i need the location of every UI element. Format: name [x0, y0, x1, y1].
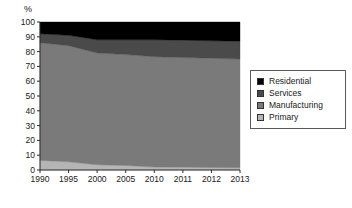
legend-item[interactable]: Residential [257, 76, 340, 87]
x-axis-tick-label: 2005 [116, 175, 135, 184]
legend-swatch-icon [257, 114, 264, 121]
legend-item-label: Services [269, 89, 302, 98]
legend-item[interactable]: Manufacturing [257, 100, 340, 111]
legend-item[interactable]: Primary [257, 112, 340, 123]
stacked-area-chart: % 1009080706050403020100 199019952000200… [0, 0, 352, 208]
area-series-manufacturing [40, 43, 240, 168]
x-axis-tick-label: 2010 [145, 175, 164, 184]
legend-item-label: Manufacturing [269, 101, 323, 110]
x-axis-tick-label: 2011 [174, 175, 192, 184]
legend-item-label: Residential [269, 77, 311, 86]
chart-legend: ResidentialServicesManufacturingPrimary [250, 70, 346, 129]
legend-item[interactable]: Services [257, 88, 340, 99]
x-axis-tick-label: 2012 [202, 175, 221, 184]
x-axis-tick-label: 1990 [31, 175, 50, 184]
x-axis-tick-label: 2013 [231, 175, 250, 184]
legend-swatch-icon [257, 90, 264, 97]
legend-item-label: Primary [269, 113, 298, 122]
legend-swatch-icon [257, 102, 264, 109]
x-axis-tick-label: 1995 [59, 175, 78, 184]
legend-swatch-icon [257, 78, 264, 85]
x-axis-tick-label: 2000 [88, 175, 107, 184]
